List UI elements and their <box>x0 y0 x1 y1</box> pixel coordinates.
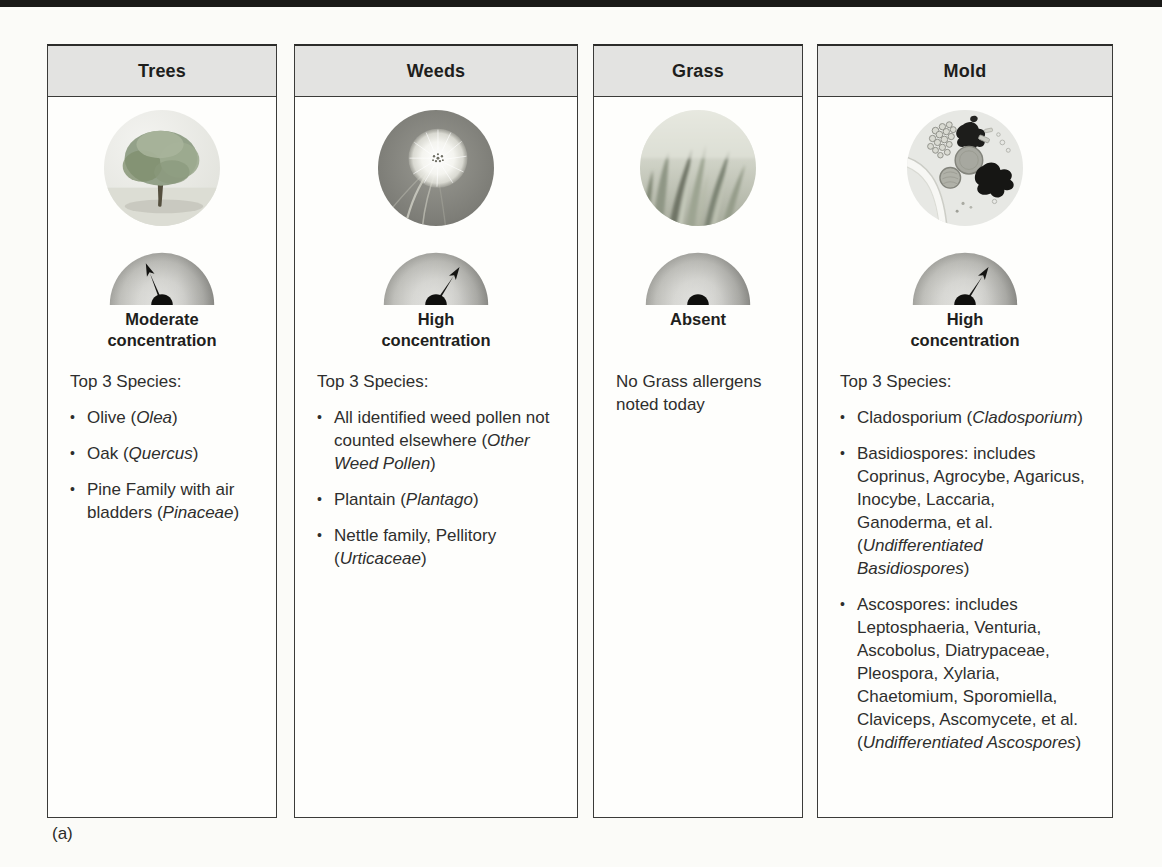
species-item-text: Oak (Quercus) <box>87 442 198 465</box>
species-item-text: All identified weed pollen not counted e… <box>334 406 559 475</box>
dandelion-photo <box>377 109 495 227</box>
card-trees-header: Trees <box>48 46 276 97</box>
trees-concentration-gauge <box>108 251 216 305</box>
species-item-text: Cladosporium (Cladosporium) <box>857 406 1083 429</box>
species-item-text: Olive (Olea) <box>87 406 178 429</box>
weeds-concentration-gauge <box>382 251 490 305</box>
species-item-text: Plantain (Plantago) <box>334 488 479 511</box>
species-item: •All identified weed pollen not counted … <box>317 406 559 475</box>
mold-species-block: Top 3 Species: •Cladosporium (Cladospori… <box>840 370 1086 754</box>
figure-label: (a) <box>52 824 73 844</box>
bullet-marker: • <box>317 524 334 570</box>
species-item: •Oak (Quercus) <box>70 442 258 465</box>
bullet-marker: • <box>70 478 87 524</box>
bullet-marker: • <box>317 488 334 511</box>
grass-concentration-label: Absent <box>594 309 802 330</box>
card-mold-title: Mold <box>944 61 987 82</box>
card-trees-title: Trees <box>138 61 186 82</box>
species-item-text: Basidiospores: includes Coprinus, Agrocy… <box>857 442 1086 580</box>
grass-photo <box>639 109 757 227</box>
bullet-marker: • <box>70 406 87 429</box>
species-item: •Ascospores: includes Leptosphaeria, Ven… <box>840 593 1086 754</box>
card-grass-title: Grass <box>672 61 724 82</box>
species-list: •All identified weed pollen not counted … <box>317 406 559 570</box>
card-grass: Grass <box>593 44 803 818</box>
card-trees: Trees <box>47 44 277 818</box>
mold-concentration-gauge <box>911 251 1019 305</box>
mold-concentration-label: High concentration <box>818 309 1112 351</box>
bullet-marker: • <box>317 406 334 475</box>
species-list-header: Top 3 Species: <box>70 370 258 393</box>
species-item-text: Pine Family with air bladders (Pinaceae) <box>87 478 258 524</box>
species-item: •Cladosporium (Cladosporium) <box>840 406 1086 429</box>
species-item: •Pine Family with air bladders (Pinaceae… <box>70 478 258 524</box>
page-top-edge <box>0 0 1162 7</box>
bullet-marker: • <box>840 406 857 429</box>
card-mold-header: Mold <box>818 46 1112 97</box>
allergen-report-figure: Trees <box>0 0 1162 867</box>
species-list-header: Top 3 Species: <box>317 370 559 393</box>
species-list: •Cladosporium (Cladosporium) •Basidiospo… <box>840 406 1086 754</box>
weeds-species-block: Top 3 Species: •All identified weed poll… <box>317 370 559 570</box>
species-list-header: Top 3 Species: <box>840 370 1086 393</box>
bullet-marker: • <box>840 593 857 754</box>
card-grass-header: Grass <box>594 46 802 97</box>
grass-concentration-gauge <box>644 251 752 305</box>
card-weeds: Weeds <box>294 44 578 818</box>
mold-photo <box>906 109 1024 227</box>
bullet-marker: • <box>840 442 857 580</box>
species-item: •Nettle family, Pellitory (Urticaceae) <box>317 524 559 570</box>
weeds-concentration-label: High concentration <box>295 309 577 351</box>
species-list: •Olive (Olea) •Oak (Quercus) •Pine Famil… <box>70 406 258 524</box>
tree-photo <box>103 109 221 227</box>
bullet-marker: • <box>70 442 87 465</box>
species-item-text: Nettle family, Pellitory (Urticaceae) <box>334 524 559 570</box>
species-item-text: Ascospores: includes Leptosphaeria, Vent… <box>857 593 1086 754</box>
trees-species-block: Top 3 Species: •Olive (Olea) •Oak (Querc… <box>70 370 258 524</box>
species-item: •Plantain (Plantago) <box>317 488 559 511</box>
species-item: •Olive (Olea) <box>70 406 258 429</box>
grass-note-block: No Grass allergens noted today <box>616 370 784 416</box>
species-item: •Basidiospores: includes Coprinus, Agroc… <box>840 442 1086 580</box>
trees-concentration-label: Moderate concentration <box>48 309 276 351</box>
card-weeds-header: Weeds <box>295 46 577 97</box>
card-weeds-title: Weeds <box>407 61 466 82</box>
grass-note: No Grass allergens noted today <box>616 370 784 416</box>
card-mold: Mold <box>817 44 1113 818</box>
